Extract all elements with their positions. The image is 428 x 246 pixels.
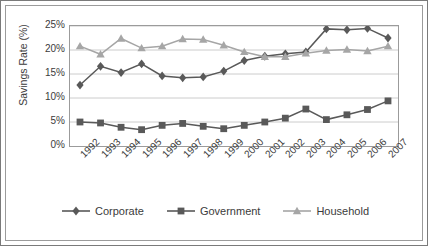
legend-item-government[interactable]: Government — [166, 205, 261, 217]
legend-swatch-square — [166, 205, 196, 217]
marker-square — [364, 106, 371, 113]
y-axis-title: Savings Rate (%) — [17, 5, 29, 125]
marker-diamond — [159, 72, 166, 81]
marker-diamond — [117, 68, 124, 77]
chart-legend: CorporateGovernmentHousehold — [1, 199, 428, 223]
marker-square — [118, 124, 125, 131]
marker-diamond — [343, 26, 350, 34]
marker-diamond — [72, 207, 79, 216]
series-government — [77, 97, 392, 133]
marker-triangle — [384, 42, 392, 49]
y-tick-label: 5% — [31, 116, 65, 126]
marker-square — [138, 126, 145, 133]
marker-square — [385, 97, 392, 104]
marker-triangle — [117, 34, 125, 41]
legend-item-household[interactable]: Household — [282, 205, 369, 217]
marker-square — [179, 120, 186, 127]
x-axis-tick-labels: 1992199319941995199619971998199920002001… — [69, 149, 399, 195]
marker-diamond — [179, 73, 186, 82]
marker-square — [344, 111, 351, 118]
marker-square — [159, 122, 166, 129]
series-line — [80, 101, 388, 130]
marker-diamond — [241, 56, 248, 65]
marker-square — [97, 120, 104, 127]
marker-square — [220, 125, 227, 132]
marker-square — [177, 208, 184, 215]
marker-square — [302, 106, 309, 113]
marker-diamond — [138, 60, 145, 69]
legend-item-corporate[interactable]: Corporate — [61, 205, 144, 217]
marker-square — [282, 115, 289, 122]
series-line — [80, 38, 388, 56]
legend-label: Corporate — [95, 205, 144, 217]
marker-square — [323, 116, 330, 123]
legend-label: Household — [316, 205, 369, 217]
plot-area — [69, 25, 399, 147]
chart-canvas — [70, 26, 398, 146]
marker-square — [241, 122, 248, 129]
marker-square — [261, 119, 268, 126]
legend-swatch-diamond — [61, 205, 91, 217]
legend-swatch-triangle — [282, 205, 312, 217]
marker-square — [200, 123, 207, 130]
series-household — [76, 34, 392, 60]
y-tick-label: 25% — [31, 20, 65, 30]
series-line — [80, 28, 388, 85]
marker-diamond — [364, 26, 371, 33]
chart-frame: Savings Rate (%) 0%5%10%15%20%25% 199219… — [0, 0, 428, 246]
y-tick-label: 0% — [31, 140, 65, 150]
series-corporate — [76, 26, 391, 89]
legend-label: Government — [200, 205, 261, 217]
y-tick-label: 15% — [31, 68, 65, 78]
marker-triangle — [76, 42, 84, 49]
y-tick-label: 20% — [31, 44, 65, 54]
marker-diamond — [384, 34, 391, 43]
marker-square — [77, 119, 84, 126]
y-tick-label: 10% — [31, 92, 65, 102]
